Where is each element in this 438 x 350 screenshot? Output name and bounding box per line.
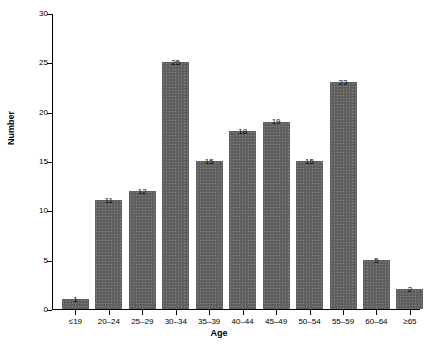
bar [263,122,290,309]
bar [229,131,256,309]
bar-value-label: 2 [408,286,412,294]
x-axis-line [52,309,420,310]
bar-value-label: 18 [238,128,247,136]
x-tick-label: 30–34 [165,317,187,326]
x-tick-label: 20–24 [98,317,120,326]
x-tick-label: 25–29 [131,317,153,326]
bar-value-label: 25 [171,59,180,67]
bar-value-label: 12 [138,188,147,196]
x-tick-mark [243,310,244,315]
x-tick-label: ≤19 [69,317,82,326]
x-tick-mark [109,310,110,315]
bar-value-label: 15 [205,158,214,166]
x-tick-mark [276,310,277,315]
x-tick-label: 35–39 [198,317,220,326]
x-tick-label: 50–54 [298,317,320,326]
bar [330,82,357,309]
bar [363,260,390,309]
y-tick-label: 10 [39,207,48,215]
bar [296,161,323,309]
x-tick-mark [75,310,76,315]
x-tick-mark [176,310,177,315]
y-tick-label: 20 [39,109,48,117]
y-tick-label: 15 [39,158,48,166]
x-tick-mark [376,310,377,315]
bar-value-label: 11 [105,197,113,205]
plot-area: 0 5 10 15 20 25 30 1 ≤19 [52,14,420,310]
x-tick-mark [410,310,411,315]
x-tick-mark [310,310,311,315]
x-tick-mark [142,310,143,315]
bar-value-label: 1 [73,296,77,304]
bar [129,191,156,309]
x-tick-label: ≥65 [403,317,416,326]
y-axis-title: Number [6,111,16,145]
x-tick-label: 40–44 [232,317,254,326]
y-tick-label: 30 [39,10,48,18]
bar [162,62,189,309]
bar-chart: 0 5 10 15 20 25 30 1 ≤19 [0,0,438,350]
x-tick-mark [343,310,344,315]
y-tick-label: 25 [39,59,48,67]
y-tick-label: 0 [44,306,48,314]
bar-value-label: 19 [272,118,281,126]
y-axis-line [52,14,53,310]
y-tick-label: 5 [44,257,48,265]
x-tick-label: 45–49 [265,317,287,326]
x-tick-mark [209,310,210,315]
bar-value-label: 15 [305,158,314,166]
bar-value-label: 5 [374,257,378,265]
x-tick-label: 60–64 [365,317,387,326]
bar [95,200,122,309]
x-axis-title: Age [0,328,438,338]
bar-value-label: 23 [339,79,348,87]
x-tick-label: 55–59 [332,317,354,326]
bar [196,161,223,309]
